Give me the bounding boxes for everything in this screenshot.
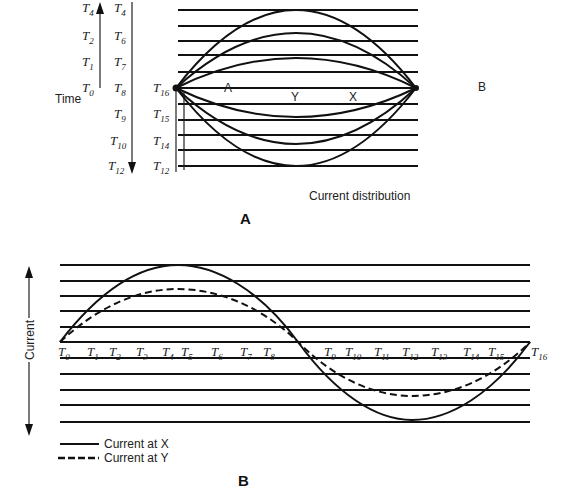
time-labels-down: T4 T6 T7 T8 T9 T10 T12 [108, 0, 127, 176]
svg-text:T12: T12 [108, 158, 125, 176]
arrow-up-icon [96, 2, 104, 14]
svg-text:T4: T4 [162, 344, 174, 362]
svg-text:T13: T13 [431, 344, 448, 362]
svg-text:T7: T7 [240, 344, 252, 362]
svg-text:T0: T0 [58, 344, 70, 362]
svg-text:T1: T1 [87, 344, 99, 362]
svg-text:T6: T6 [211, 344, 223, 362]
svg-text:T2: T2 [109, 344, 121, 362]
panel-b-grid-lines [60, 265, 530, 422]
time-label: Time [55, 92, 82, 106]
svg-text:T14: T14 [153, 133, 170, 151]
svg-text:T3: T3 [136, 344, 148, 362]
node-b-marker [413, 85, 419, 91]
svg-text:T11: T11 [374, 344, 390, 362]
panel-b-caption: B [238, 472, 249, 489]
svg-text:T14: T14 [463, 344, 480, 362]
point-x-label: X [349, 90, 357, 104]
svg-text:T6: T6 [114, 28, 126, 46]
panel-a: Time T4 T2 T1 T0 T4 T6 T7 T8 T9 T10 T12 … [55, 0, 486, 227]
standing-wave-diagram: Time T4 T2 T1 T0 T4 T6 T7 T8 T9 T10 T12 … [0, 0, 572, 492]
panel-a-caption: A [240, 210, 251, 227]
point-y-label: Y [291, 90, 299, 104]
svg-text:T12: T12 [402, 344, 419, 362]
svg-text:T16: T16 [531, 344, 548, 362]
point-b-label: B [478, 80, 486, 94]
legend-label-x: Current at X [104, 437, 169, 451]
svg-text:T5: T5 [181, 344, 193, 362]
svg-text:T4: T4 [82, 0, 94, 18]
current-distribution-label: Current distribution [309, 189, 410, 203]
svg-text:T15: T15 [153, 106, 170, 124]
time-labels-nodes: T16 T15 T14 T12 [153, 80, 170, 176]
svg-text:T2: T2 [82, 28, 94, 46]
svg-text:T9: T9 [324, 344, 336, 362]
arrow-down-icon [25, 424, 33, 436]
legend: Current at X Current at Y [58, 437, 169, 465]
panel-b-time-labels: T0 T1 T2 T3 T4 T5 T6 T7 T8 T9 T10 T11 T1… [58, 344, 548, 362]
svg-text:T7: T7 [114, 54, 126, 72]
arrow-up-icon [25, 266, 33, 278]
node-a-marker [173, 85, 180, 92]
time-labels-up: T4 T2 T1 T0 [82, 0, 94, 98]
svg-text:T15: T15 [488, 344, 505, 362]
svg-text:T4: T4 [114, 0, 126, 18]
panel-a-left-verticals [176, 88, 184, 172]
svg-text:T9: T9 [114, 106, 126, 124]
arrow-down-icon [128, 162, 136, 174]
legend-label-y: Current at Y [104, 451, 168, 465]
panel-b: Current T0 T1 T2 T3 T4 T5 T6 T7 T8 T9 T1… [23, 265, 548, 489]
svg-text:T8: T8 [114, 80, 126, 98]
svg-text:T12: T12 [153, 158, 170, 176]
svg-text:T10: T10 [345, 344, 362, 362]
current-axis-label: Current [23, 319, 37, 360]
svg-text:T0: T0 [82, 80, 94, 98]
point-a-label: A [224, 81, 232, 95]
svg-text:T8: T8 [263, 344, 275, 362]
svg-text:T16: T16 [153, 80, 170, 98]
svg-text:T1: T1 [82, 54, 94, 72]
svg-text:T10: T10 [110, 133, 127, 151]
